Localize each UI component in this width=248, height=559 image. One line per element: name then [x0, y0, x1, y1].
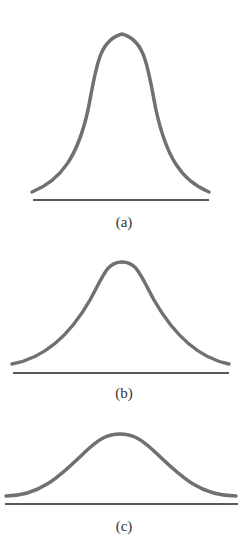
panel-c [5, 434, 238, 504]
label-b: (b) [0, 385, 248, 402]
bell-curves-figure [0, 0, 248, 559]
panel-b [12, 262, 229, 373]
label-a: (a) [0, 214, 248, 231]
label-c: (c) [0, 518, 248, 535]
curve-a [32, 34, 209, 192]
curve-c [6, 434, 236, 496]
curve-b [12, 262, 229, 364]
panel-a [32, 34, 209, 200]
